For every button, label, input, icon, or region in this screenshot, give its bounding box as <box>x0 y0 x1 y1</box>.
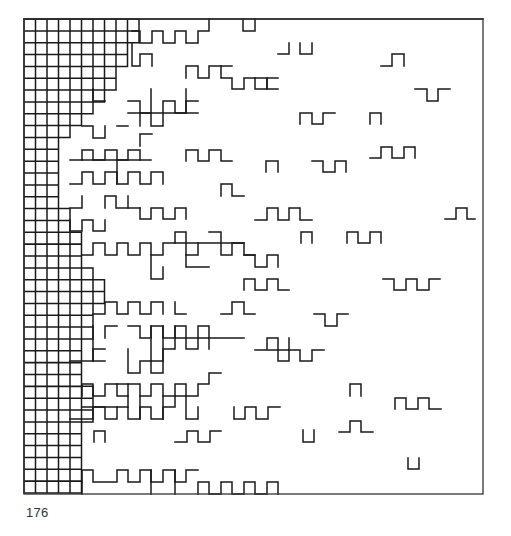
meander-fragment <box>132 19 209 43</box>
meander-fragment <box>301 232 312 243</box>
meander-fragment <box>234 407 280 419</box>
meander-fragment <box>381 54 404 66</box>
meander-fragment <box>186 150 232 161</box>
meander-fragments <box>24 19 483 494</box>
meander-fragment <box>175 302 186 314</box>
meander-fragment <box>128 338 209 373</box>
plotter-artwork <box>0 0 511 510</box>
meander-fragment <box>140 208 186 219</box>
meander-fragment <box>266 161 278 172</box>
meander-fragment <box>395 398 441 409</box>
meander-fragment <box>70 220 105 231</box>
meander-fragment <box>186 255 209 267</box>
meander-fragment <box>105 326 117 338</box>
meander-fragment <box>244 279 289 290</box>
meander-fragment <box>303 430 314 442</box>
meander-fragment <box>94 431 105 442</box>
meander-fragment <box>255 208 312 220</box>
meander-fragment <box>314 314 348 326</box>
meander-fragment <box>70 196 82 208</box>
meander-fragment <box>244 255 278 267</box>
meander-fragment <box>93 349 105 361</box>
meander-fragment <box>255 338 289 350</box>
meander-fragment <box>243 19 255 31</box>
meander-fragment <box>255 78 278 89</box>
meander-fragment <box>268 350 324 361</box>
meander-fragment <box>408 458 419 469</box>
meander-fragment <box>82 126 105 138</box>
meander-fragment <box>151 326 163 361</box>
meander-fragment <box>82 150 140 160</box>
meander-fragment <box>221 184 244 196</box>
meander-fragment <box>128 101 151 113</box>
meander-fragment <box>347 232 381 243</box>
meander-fragment <box>105 196 116 208</box>
meander-fragment <box>151 255 163 279</box>
meander-fragment <box>175 431 221 442</box>
meander-fragment <box>415 89 450 101</box>
meander-fragment <box>350 384 361 396</box>
meander-fragment <box>383 279 440 290</box>
meander-fragment <box>445 208 475 219</box>
meander-fragment <box>370 113 381 124</box>
meander-fragment <box>370 147 415 158</box>
meander-fragment <box>312 161 346 172</box>
grid-lines <box>24 19 139 493</box>
meander-fragment <box>278 43 289 54</box>
meander-fragment <box>339 421 373 432</box>
meander-fragment <box>140 134 152 146</box>
meander-fragment <box>151 89 198 126</box>
page-number: 176 <box>26 505 49 520</box>
meander-fragment <box>82 373 221 396</box>
meander-fragment <box>132 43 152 66</box>
meander-fragment <box>300 43 312 54</box>
meander-fragment <box>82 470 198 482</box>
meander-fragment <box>221 302 255 314</box>
meander-fragment <box>300 113 335 124</box>
meander-fragment <box>128 326 244 338</box>
meander-fragment <box>198 482 278 494</box>
dense-grid <box>24 19 139 493</box>
